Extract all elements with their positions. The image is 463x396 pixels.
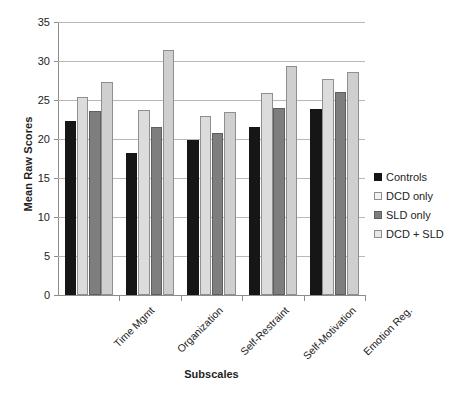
bar — [224, 112, 236, 295]
x-axis-tick — [365, 296, 366, 301]
y-axis-line — [58, 22, 59, 296]
bar — [163, 50, 175, 295]
bar — [310, 109, 322, 295]
bar — [261, 93, 273, 295]
y-axis-tick-label: 35 — [38, 16, 50, 28]
x-axis-tick — [119, 296, 120, 301]
y-axis-tick — [54, 295, 58, 296]
bar — [151, 127, 163, 295]
bar-chart: Mean Raw Scores 05101520253035 Time Mgmt… — [0, 0, 463, 396]
x-axis-tick — [181, 296, 182, 301]
bar — [200, 116, 212, 295]
bar — [89, 111, 101, 295]
y-axis-tick-label: 15 — [38, 172, 50, 184]
x-axis-title: Subscales — [58, 368, 365, 380]
y-axis-tick-label: 5 — [44, 250, 50, 262]
y-axis-tick — [54, 256, 58, 257]
gridline — [58, 22, 365, 23]
x-axis-category-label: Time Mgmt — [111, 304, 156, 349]
legend-item: Controls — [374, 168, 462, 185]
legend-item: DCD only — [374, 187, 462, 204]
legend: ControlsDCD onlySLD onlyDCD + SLD — [374, 168, 462, 244]
x-axis-tick — [304, 296, 305, 301]
legend-swatch-icon — [374, 211, 382, 219]
plot-area: 05101520253035 Time MgmtOrganizationSelf… — [58, 22, 365, 295]
x-axis-tick — [242, 296, 243, 301]
y-axis-tick — [54, 178, 58, 179]
bar — [249, 127, 261, 295]
legend-label: DCD only — [386, 190, 433, 202]
legend-swatch-icon — [374, 192, 382, 200]
bar — [187, 140, 199, 295]
legend-label: SLD only — [386, 209, 431, 221]
bar — [65, 121, 77, 295]
y-axis-title: Mean Raw Scores — [22, 89, 34, 239]
bar — [335, 92, 347, 295]
legend-item: SLD only — [374, 206, 462, 223]
bar — [347, 72, 359, 295]
y-axis-tick-label: 30 — [38, 55, 50, 67]
x-axis-line — [58, 295, 366, 296]
bar — [101, 82, 113, 295]
y-axis-tick — [54, 217, 58, 218]
legend-swatch-icon — [374, 173, 382, 181]
y-axis-tick — [54, 100, 58, 101]
y-axis-tick-label: 10 — [38, 211, 50, 223]
legend-label: DCD + SLD — [386, 228, 444, 240]
x-axis-category-label: Self-Restraint — [237, 304, 290, 357]
bar — [138, 110, 150, 295]
y-axis-tick-label: 25 — [38, 94, 50, 106]
y-axis-tick-label: 0 — [44, 289, 50, 301]
x-axis-category-label: Self-Motivation — [301, 304, 359, 362]
x-axis-category-label: Emotion Reg. — [360, 304, 413, 357]
bar — [273, 108, 285, 295]
x-axis-category-label: Organization — [175, 304, 226, 355]
y-axis-tick — [54, 61, 58, 62]
y-axis-tick-label: 20 — [38, 133, 50, 145]
legend-label: Controls — [386, 171, 427, 183]
bar — [212, 133, 224, 295]
legend-item: DCD + SLD — [374, 225, 462, 242]
bar — [322, 79, 334, 295]
gridline — [58, 61, 365, 62]
bar — [77, 97, 89, 295]
bar — [286, 66, 298, 295]
bar — [126, 153, 138, 295]
y-axis-tick — [54, 22, 58, 23]
y-axis-tick — [54, 139, 58, 140]
legend-swatch-icon — [374, 230, 382, 238]
